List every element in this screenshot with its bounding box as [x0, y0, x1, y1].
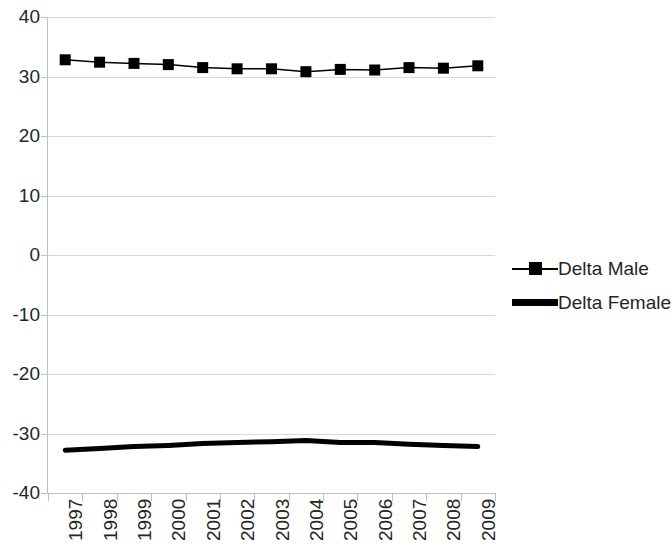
data-point-marker [369, 65, 380, 76]
data-point-marker [163, 59, 174, 70]
legend-label-delta-female: Delta Female [558, 293, 671, 313]
data-point-marker [232, 63, 243, 74]
legend-label-delta-male: Delta Male [558, 259, 649, 279]
data-point-marker [472, 60, 483, 71]
data-point-marker [404, 62, 415, 73]
data-point-marker [300, 66, 311, 77]
legend-key-line-square-marker [512, 259, 558, 279]
legend-thick-line-icon [512, 299, 558, 306]
legend-item-delta-female: Delta Female [512, 286, 672, 320]
legend-key-thick-line [512, 293, 558, 313]
data-point-marker [94, 57, 105, 68]
legend-item-delta-male: Delta Male [512, 252, 672, 286]
data-point-marker [335, 64, 346, 75]
data-point-marker [60, 54, 71, 65]
data-point-marker [438, 63, 449, 74]
chart-container: 403020100-10-20-30-40 199719981999200020… [0, 0, 672, 554]
data-point-marker [266, 63, 277, 74]
series-line [65, 441, 478, 451]
square-marker-icon [529, 262, 542, 275]
data-point-marker [129, 58, 140, 69]
data-point-marker [197, 62, 208, 73]
chart-legend: Delta Male Delta Female [512, 252, 672, 320]
